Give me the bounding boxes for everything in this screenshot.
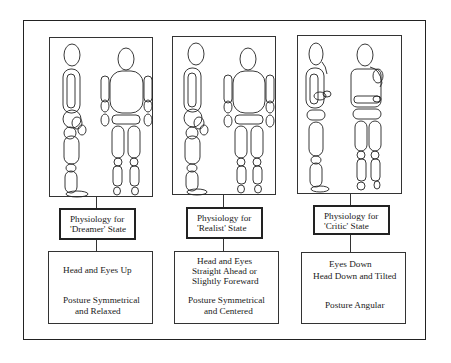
dreamer-figures-box bbox=[49, 37, 153, 197]
realist-state-label: Physiology for 'Realist' State bbox=[186, 207, 263, 239]
desc-line: Posture Symmetrical bbox=[63, 295, 140, 305]
connector-line bbox=[96, 197, 97, 208]
desc-line: Posture Symmetrical bbox=[188, 295, 265, 305]
desc-line: and Relaxed bbox=[75, 306, 121, 316]
desc-line: Straight Ahead or bbox=[192, 266, 257, 276]
desc-line: Head and Eyes Up bbox=[63, 265, 132, 275]
connector-line bbox=[223, 195, 224, 207]
desc-line: Head Down and Tilted bbox=[313, 271, 396, 281]
critic-figures-box bbox=[297, 35, 402, 194]
desc-line: Slightly Foreward bbox=[192, 276, 259, 286]
side-figure bbox=[306, 43, 331, 192]
side-figure bbox=[184, 43, 208, 195]
dreamer-description-box: Head and Eyes Up Posture Symmetrical and… bbox=[48, 251, 153, 324]
realist-figures-box bbox=[172, 36, 276, 195]
label-line-2: 'Dreamer' State bbox=[70, 224, 134, 234]
front-figure bbox=[351, 44, 383, 190]
label-line-1: Physiology for bbox=[197, 213, 261, 223]
dreamer-figures-illustration bbox=[50, 38, 154, 198]
label-line-1: Physiology for bbox=[324, 211, 388, 221]
front-figure bbox=[101, 48, 152, 195]
connector-line bbox=[223, 239, 224, 251]
connector-line bbox=[350, 235, 351, 252]
desc-line: Head and Eyes bbox=[197, 256, 252, 266]
front-figure bbox=[224, 48, 274, 193]
connector-line bbox=[96, 240, 97, 251]
realist-description-box: Head and Eyes Straight Ahead or Slightly… bbox=[174, 251, 279, 324]
label-line-1: Physiology for bbox=[70, 214, 134, 224]
connector-line bbox=[350, 194, 351, 205]
desc-line: Eyes Down bbox=[329, 259, 372, 269]
desc-line: Posture Angular bbox=[325, 300, 384, 310]
realist-figures-illustration bbox=[173, 37, 277, 196]
desc-line: and Centered bbox=[204, 306, 253, 316]
label-line-2: 'Realist' State bbox=[197, 223, 261, 233]
critic-description-box: Eyes Down Head Down and Tilted Posture A… bbox=[301, 252, 406, 324]
dreamer-state-label: Physiology for 'Dreamer' State bbox=[59, 208, 136, 240]
critic-figures-illustration bbox=[298, 36, 403, 195]
side-figure bbox=[63, 44, 88, 197]
label-line-2: 'Critic' State bbox=[324, 221, 388, 231]
critic-state-label: Physiology for 'Critic' State bbox=[313, 205, 390, 235]
